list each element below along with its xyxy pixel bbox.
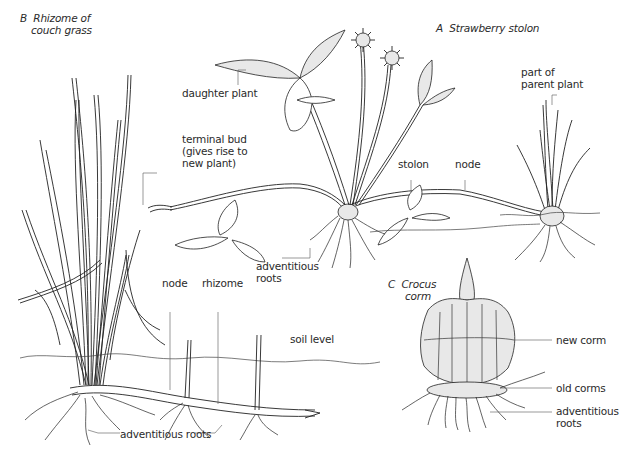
panel-c-title: C Crocus [388,278,436,290]
label-old-corms: old corms [556,382,606,394]
label-terminal-bud-line3: new plant) [182,157,236,169]
label-adventitious-roots-c-line1: adventitious [556,405,619,417]
panel-b-title: B Rhizome of [20,12,90,24]
panel-c-letter: C [388,278,395,290]
label-parent-line1: part of [521,66,555,78]
label-parent-line2: parent plant [521,78,583,90]
botanical-diagram: B Rhizome of couch grass A Strawberry st… [0,0,624,449]
label-adventitious-roots-c-line2: roots [556,417,582,429]
panel-b-letter: B [20,12,27,24]
panel-c-title-line1: Crocus [401,278,436,290]
label-new-corm: new corm [556,334,606,346]
label-daughter-plant: daughter plant [182,87,257,99]
label-node-a: node [455,158,480,170]
label-rhizome: rhizome [202,277,243,289]
panel-a-title-text: Strawberry stolon [449,22,539,34]
label-terminal-bud-line2: (gives rise to [182,145,247,157]
panel-c-title-line2: corm [405,290,431,302]
label-adventitious-roots-a-line2: roots [256,272,282,284]
label-adventitious-roots-b: adventitious roots [120,428,211,440]
label-soil-level: soil level [290,333,334,345]
label-node-b: node [162,277,187,289]
label-stolon: stolon [398,158,429,170]
label-terminal-bud-line1: terminal bud [182,133,247,145]
panel-a-letter: A [436,22,443,34]
panel-a-title: A Strawberry stolon [436,22,539,34]
panel-b-title-line2: couch grass [31,24,92,36]
couch-grass-illustration [18,75,380,445]
label-adventitious-roots-a-line1: adventitious [256,260,319,272]
panel-b-title-line1: Rhizome of [33,12,90,24]
